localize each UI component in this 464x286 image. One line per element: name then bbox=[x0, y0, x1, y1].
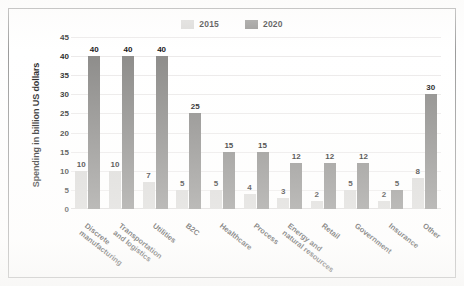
bar-value-label: 15 bbox=[224, 141, 233, 150]
y-tick-15: 15 bbox=[60, 147, 69, 156]
bar-group: 25 bbox=[374, 37, 408, 209]
category-label: Insurance bbox=[375, 221, 409, 283]
legend-swatch-2020 bbox=[245, 20, 258, 29]
y-tick-45: 45 bbox=[60, 33, 69, 42]
category-label: Retail bbox=[308, 221, 342, 283]
bar-value-label: 7 bbox=[146, 171, 150, 180]
bar-group: 515 bbox=[206, 37, 240, 209]
bar-value-label: 3 bbox=[281, 187, 285, 196]
bar-2020[interactable]: 30 bbox=[425, 94, 437, 209]
y-axis-title: Spending in billion US dollars bbox=[29, 41, 43, 209]
chart-page: 2015 2020 Spending in billion US dollars… bbox=[0, 0, 464, 286]
category-label: Process bbox=[240, 221, 274, 283]
legend-item-2020[interactable]: 2020 bbox=[245, 19, 283, 29]
bar-2020[interactable]: 5 bbox=[391, 190, 403, 209]
bar-2015[interactable]: 5 bbox=[210, 190, 222, 209]
bar-2015[interactable]: 7 bbox=[143, 182, 155, 209]
bar-group: 212 bbox=[306, 37, 340, 209]
bar-2015[interactable]: 10 bbox=[75, 171, 87, 209]
chart-frame: 2015 2020 Spending in billion US dollars… bbox=[8, 8, 456, 278]
bar-value-label: 40 bbox=[124, 45, 133, 54]
bar-2020[interactable]: 25 bbox=[189, 113, 201, 209]
y-tick-30: 30 bbox=[60, 90, 69, 99]
bar-2020[interactable]: 15 bbox=[223, 152, 235, 209]
bar-value-label: 10 bbox=[111, 160, 120, 169]
bar-value-label: 2 bbox=[382, 190, 386, 199]
y-tick-40: 40 bbox=[60, 52, 69, 61]
bar-2020[interactable]: 40 bbox=[122, 56, 134, 209]
category-label: Government bbox=[342, 221, 376, 283]
bar-2015[interactable]: 4 bbox=[244, 194, 256, 209]
category-label: Healthcare bbox=[206, 221, 240, 283]
legend-item-2015[interactable]: 2015 bbox=[181, 19, 219, 29]
legend-swatch-2015 bbox=[181, 20, 194, 29]
chart-legend: 2015 2020 bbox=[9, 19, 455, 29]
bar-value-label: 2 bbox=[315, 190, 319, 199]
bar-group: 415 bbox=[239, 37, 273, 209]
legend-label-2020: 2020 bbox=[263, 19, 283, 29]
bar-2020[interactable]: 40 bbox=[156, 56, 168, 209]
category-label: Transportation and logistics bbox=[105, 221, 139, 283]
bar-2015[interactable]: 3 bbox=[277, 198, 289, 209]
bar-value-label: 15 bbox=[258, 141, 267, 150]
bar-value-label: 40 bbox=[90, 45, 99, 54]
y-tick-0: 0 bbox=[65, 205, 69, 214]
bar-value-label: 12 bbox=[359, 152, 368, 161]
bar-value-label: 8 bbox=[415, 167, 419, 176]
bar-2020[interactable]: 40 bbox=[88, 56, 100, 209]
category-label: Discrete manufacturing bbox=[71, 221, 105, 283]
bar-value-label: 10 bbox=[77, 160, 86, 169]
bar-2015[interactable]: 5 bbox=[176, 190, 188, 209]
bar-value-label: 5 bbox=[214, 179, 218, 188]
bar-value-label: 12 bbox=[325, 152, 334, 161]
bar-2020[interactable]: 15 bbox=[257, 152, 269, 209]
bar-group: 740 bbox=[138, 37, 172, 209]
bar-value-label: 5 bbox=[180, 179, 184, 188]
bar-group: 525 bbox=[172, 37, 206, 209]
category-label-text: B2C bbox=[184, 222, 201, 238]
y-tick-35: 35 bbox=[60, 71, 69, 80]
y-tick-5: 5 bbox=[65, 185, 69, 194]
bar-value-label: 4 bbox=[247, 183, 251, 192]
y-tick-10: 10 bbox=[60, 166, 69, 175]
category-label: Utilities bbox=[139, 221, 173, 283]
category-label-text: Retail bbox=[319, 222, 340, 241]
bar-group: 312 bbox=[273, 37, 307, 209]
bar-value-label: 40 bbox=[157, 45, 166, 54]
category-label: Energy and natural resources bbox=[274, 221, 308, 283]
y-axis-ticks: 454035302520151050 bbox=[45, 37, 71, 209]
category-label-text: Other bbox=[421, 222, 442, 241]
bar-2015[interactable]: 5 bbox=[344, 190, 356, 209]
y-tick-25: 25 bbox=[60, 109, 69, 118]
bar-value-label: 5 bbox=[348, 179, 352, 188]
y-axis-title-text: Spending in billion US dollars bbox=[31, 63, 41, 188]
plot-area: Spending in billion US dollars 454035302… bbox=[23, 33, 443, 219]
category-label: Other bbox=[409, 221, 443, 283]
y-tick-20: 20 bbox=[60, 128, 69, 137]
x-axis-category-labels: Discrete manufacturingTransportation and… bbox=[71, 221, 443, 283]
bar-2020[interactable]: 12 bbox=[357, 163, 369, 209]
bar-value-label: 12 bbox=[292, 152, 301, 161]
bar-value-label: 25 bbox=[191, 102, 200, 111]
bar-2020[interactable]: 12 bbox=[324, 163, 336, 209]
bar-group: 1040 bbox=[105, 37, 139, 209]
bar-2015[interactable]: 2 bbox=[378, 201, 390, 209]
bar-groups: 1040104074052551541531221251225830 bbox=[71, 37, 441, 209]
bar-group: 1040 bbox=[71, 37, 105, 209]
bar-2015[interactable]: 8 bbox=[412, 178, 424, 209]
bar-group: 830 bbox=[407, 37, 441, 209]
bar-value-label: 30 bbox=[426, 83, 435, 92]
bar-2015[interactable]: 2 bbox=[311, 201, 323, 209]
bar-2020[interactable]: 12 bbox=[290, 163, 302, 209]
category-label: B2C bbox=[172, 221, 206, 283]
bar-group: 512 bbox=[340, 37, 374, 209]
bar-2015[interactable]: 10 bbox=[109, 171, 121, 209]
bar-value-label: 5 bbox=[395, 179, 399, 188]
legend-label-2015: 2015 bbox=[199, 19, 219, 29]
